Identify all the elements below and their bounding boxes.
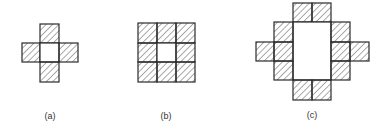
figure-b-label: (b) [151,111,181,121]
figure-a [22,24,78,82]
hatched-square [312,3,331,22]
hatched-square [331,42,350,61]
empty-square [40,43,59,62]
hatched-square [157,23,176,43]
figure-a-label: (a) [35,111,65,121]
hatched-square [293,3,312,22]
empty-square [157,43,176,62]
hatched-square [138,23,157,43]
hatched-square [274,42,293,61]
figure-c-label: (c) [297,110,327,120]
hatched-square [157,62,176,82]
hatched-square [176,62,195,82]
figure-c [256,3,369,100]
hatched-square [256,42,274,61]
hatched-square [22,43,40,62]
hatched-square [274,22,293,42]
figure-b [138,23,195,82]
hatched-square [176,43,195,62]
hatched-square [331,61,350,80]
hatched-square [40,62,59,82]
hatched-square [274,61,293,80]
hatched-square [312,80,331,100]
hatched-square [40,24,59,43]
hatched-square [138,43,157,62]
hatched-square [350,42,369,61]
hatched-square [331,22,350,42]
hatched-square [59,43,78,62]
hatched-square [293,80,312,100]
empty-region [293,22,331,80]
diagram-canvas [0,0,385,128]
hatched-square [176,23,195,43]
hatched-square [138,62,157,82]
